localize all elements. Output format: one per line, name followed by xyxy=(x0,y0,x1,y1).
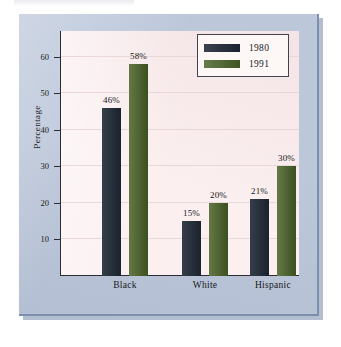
bar-group: 46%58% xyxy=(102,31,148,276)
y-tick-label: 20 xyxy=(19,198,49,208)
legend-label-1980: 1980 xyxy=(249,43,269,53)
legend-swatch-1980 xyxy=(204,44,240,52)
cropped-caption-remnant xyxy=(14,0,134,6)
bar-value-label: 21% xyxy=(251,186,268,196)
chart-panel: 102030405060 Percentage 46%58%15%20%21%3… xyxy=(19,14,319,316)
y-tick-label: 10 xyxy=(19,234,49,244)
legend-item-1980: 1980 xyxy=(204,41,281,54)
category-label: White xyxy=(170,280,240,290)
y-tick-label: 60 xyxy=(19,52,49,62)
chart-legend: 1980 1991 xyxy=(197,34,289,77)
bar: 58% xyxy=(129,64,148,276)
bar: 21% xyxy=(250,199,269,276)
legend-item-1991: 1991 xyxy=(204,57,281,70)
bar: 46% xyxy=(102,108,121,276)
bar-value-label: 30% xyxy=(278,153,295,163)
category-label: Black xyxy=(90,280,160,290)
bar: 30% xyxy=(277,166,296,276)
bar-value-label: 58% xyxy=(130,51,147,61)
bar: 15% xyxy=(182,221,201,276)
bar: 20% xyxy=(209,203,228,276)
x-axis-category-labels: BlackWhiteHispanic xyxy=(60,280,299,300)
bar-value-label: 20% xyxy=(210,190,227,200)
bar-value-label: 15% xyxy=(183,208,200,218)
category-label: Hispanic xyxy=(238,280,308,290)
y-axis-title: Percentage xyxy=(32,87,42,167)
legend-label-1991: 1991 xyxy=(249,59,269,69)
legend-swatch-1991 xyxy=(204,60,240,68)
bar-value-label: 46% xyxy=(103,95,120,105)
figure-page: 102030405060 Percentage 46%58%15%20%21%3… xyxy=(0,0,341,347)
